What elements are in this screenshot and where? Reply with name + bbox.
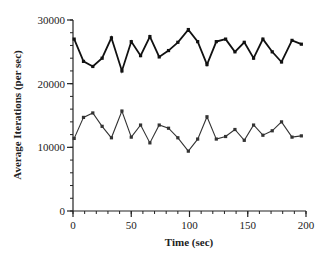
data-point bbox=[148, 35, 151, 38]
data-point bbox=[271, 129, 274, 132]
data-point bbox=[290, 136, 293, 139]
y-tick-label: 30000 bbox=[38, 14, 66, 26]
data-point bbox=[158, 55, 161, 58]
data-point bbox=[233, 128, 236, 131]
data-point bbox=[290, 39, 293, 42]
data-point bbox=[224, 135, 227, 138]
data-point bbox=[280, 60, 283, 63]
data-point bbox=[110, 36, 113, 39]
data-point bbox=[139, 123, 142, 126]
data-point bbox=[280, 120, 283, 123]
x-tick-label: 50 bbox=[126, 219, 138, 231]
data-point bbox=[187, 150, 190, 153]
data-point bbox=[243, 139, 246, 142]
data-point bbox=[196, 40, 199, 43]
data-point bbox=[110, 136, 113, 139]
data-point bbox=[139, 54, 142, 57]
data-point bbox=[82, 60, 85, 63]
x-tick-label: 200 bbox=[298, 219, 315, 231]
data-point bbox=[120, 109, 123, 112]
data-point bbox=[196, 137, 199, 140]
data-point bbox=[261, 38, 264, 41]
data-point bbox=[233, 50, 236, 53]
x-axis-title: Time (sec) bbox=[165, 236, 214, 249]
x-tick-label: 100 bbox=[181, 219, 198, 231]
y-tick-label: 20000 bbox=[38, 78, 66, 90]
y-axis-title: Average Iterations (per sec) bbox=[11, 50, 24, 180]
data-point bbox=[300, 134, 303, 137]
data-point bbox=[120, 69, 123, 72]
data-point bbox=[167, 127, 170, 130]
data-point bbox=[167, 49, 170, 52]
data-point bbox=[101, 57, 104, 60]
data-point bbox=[82, 116, 85, 119]
x-tick-label: 0 bbox=[70, 219, 76, 231]
data-point bbox=[215, 40, 218, 43]
y-axis: 0100002000030000 bbox=[38, 14, 74, 217]
data-point bbox=[148, 141, 151, 144]
y-tick-label: 10000 bbox=[38, 141, 66, 153]
data-point bbox=[205, 115, 208, 118]
data-point bbox=[243, 41, 246, 44]
data-point bbox=[91, 65, 94, 68]
y-tick-label: 0 bbox=[60, 205, 66, 217]
data-point bbox=[261, 134, 264, 137]
data-point bbox=[224, 38, 227, 41]
data-point bbox=[215, 137, 218, 140]
data-point bbox=[187, 28, 190, 31]
data-point bbox=[252, 123, 255, 126]
data-point bbox=[73, 137, 76, 140]
data-point bbox=[300, 43, 303, 46]
line-chart: 0100002000030000 050100150200 Time (sec)… bbox=[0, 0, 326, 262]
series-lower bbox=[73, 109, 303, 152]
data-point bbox=[73, 38, 76, 41]
data-point bbox=[176, 136, 179, 139]
data-point bbox=[101, 125, 104, 128]
data-point bbox=[130, 136, 133, 139]
series-layer bbox=[73, 28, 303, 153]
data-point bbox=[271, 50, 274, 53]
data-point bbox=[205, 63, 208, 66]
x-tick-label: 150 bbox=[240, 219, 257, 231]
data-point bbox=[91, 111, 94, 114]
x-axis: 050100150200 bbox=[70, 211, 315, 231]
data-point bbox=[158, 123, 161, 126]
data-point bbox=[252, 57, 255, 60]
data-point bbox=[176, 41, 179, 44]
data-point bbox=[130, 40, 133, 43]
series-upper bbox=[73, 28, 303, 73]
